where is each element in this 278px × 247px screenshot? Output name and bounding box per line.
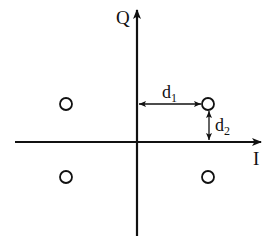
q-axis-label: Q xyxy=(116,7,130,28)
constellation-diagram: Q I d1 d2 xyxy=(0,0,278,247)
constellation-point-top-left xyxy=(60,98,72,110)
constellation-point-bottom-left xyxy=(60,171,72,183)
constellation-point-top-right xyxy=(202,98,214,110)
i-axis-label: I xyxy=(253,148,259,169)
d1-label: d1 xyxy=(162,82,177,105)
constellation-point-bottom-right xyxy=(202,171,214,183)
d2-label: d2 xyxy=(215,115,230,138)
